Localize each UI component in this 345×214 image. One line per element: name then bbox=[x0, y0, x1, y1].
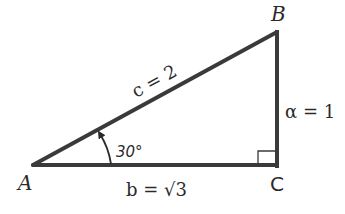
side-label-c: c = 2 bbox=[128, 60, 180, 101]
side-label-b: b = √3 bbox=[126, 179, 187, 200]
vertex-label-a: A bbox=[16, 171, 32, 195]
angle-arc-arrow bbox=[100, 134, 111, 164]
vertex-label-b: B bbox=[270, 2, 286, 26]
side-c-hypotenuse bbox=[33, 32, 277, 165]
triangle-diagram: A B C c = 2 α = 1 b = √3 30° bbox=[0, 0, 345, 214]
vertex-label-c: C bbox=[270, 172, 284, 196]
side-label-a: α = 1 bbox=[285, 101, 335, 122]
angle-label-a: 30° bbox=[116, 143, 143, 161]
right-angle-marker bbox=[258, 151, 276, 165]
